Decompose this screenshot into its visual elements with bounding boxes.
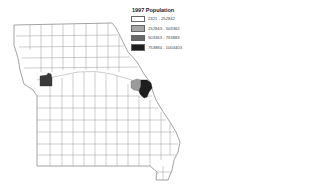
legend-swatch bbox=[131, 16, 145, 23]
legend-label: 2321 - 252842 bbox=[148, 16, 175, 21]
legend-label: 252843 - 503362 bbox=[148, 26, 180, 31]
legend-swatch bbox=[131, 35, 145, 42]
legend-swatch bbox=[131, 44, 145, 51]
legend-swatch bbox=[131, 25, 145, 32]
county-st-charles bbox=[131, 79, 141, 91]
legend-item: 753884 - 1004403 bbox=[131, 43, 195, 53]
legend-item: 503363 - 753883 bbox=[131, 33, 195, 43]
legend-label: 503363 - 753883 bbox=[148, 35, 180, 40]
legend-title: 1997 Population bbox=[132, 7, 195, 14]
legend-label: 753884 - 1004403 bbox=[148, 45, 182, 50]
legend-item: 2321 - 252842 bbox=[131, 14, 195, 24]
legend: 1997 Population 2321 - 252842 252843 - 5… bbox=[131, 7, 195, 52]
legend-item: 252843 - 503362 bbox=[131, 24, 195, 34]
